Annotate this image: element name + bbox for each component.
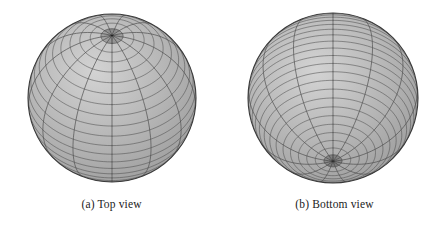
sphere-wireframe-bottom-view xyxy=(223,0,446,196)
sphere-wireframe-top-view xyxy=(0,0,223,196)
figure-page: (a) Top view (b) Bottom view xyxy=(0,0,446,231)
panel-caption-top-view: (a) Top view xyxy=(0,198,223,210)
figure-panel-top-view: (a) Top view xyxy=(0,0,223,231)
figure-panel-bottom-view: (b) Bottom view xyxy=(223,0,446,231)
panel-caption-bottom-view: (b) Bottom view xyxy=(223,198,446,210)
